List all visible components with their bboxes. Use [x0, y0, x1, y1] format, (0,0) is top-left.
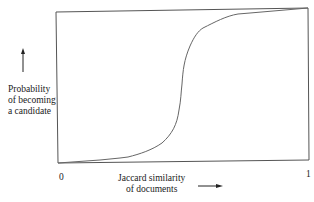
up-arrow-icon [21, 48, 25, 72]
right-arrow-icon [198, 184, 223, 188]
y-axis-label-line-1: Probability [8, 84, 56, 95]
probability-curve [58, 8, 308, 163]
x-tick-1: 1 [306, 169, 311, 180]
y-axis-label-line-3: a candidate [8, 106, 56, 117]
plot-frame [56, 8, 309, 163]
x-axis-label-line-1: Jaccard similarity [118, 173, 185, 184]
x-axis-label: Jaccard similarity of documents [118, 173, 185, 195]
y-axis-label-line-2: of becoming [8, 95, 56, 106]
y-axis-label: Probability of becoming a candidate [8, 84, 56, 117]
x-axis-label-line-2: of documents [118, 184, 185, 195]
x-tick-0: 0 [59, 172, 64, 183]
